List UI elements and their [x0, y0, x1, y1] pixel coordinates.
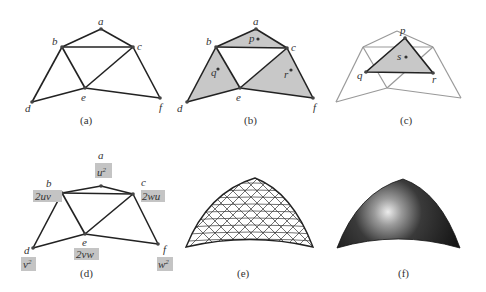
vertex-label-q: q: [357, 69, 363, 81]
weight-boxes: [21, 163, 173, 271]
face-point-s: s: [397, 50, 401, 62]
vertex-label-b: b: [206, 35, 212, 47]
vertex-label-c: c: [141, 176, 146, 188]
panel-b: a b c d e f p q r (b): [177, 15, 318, 127]
face-centroid-dot: [404, 55, 407, 58]
weight-b: 2uv: [35, 190, 51, 202]
panel-e: (e): [140, 170, 374, 280]
panel-c: p q r s (c): [336, 24, 461, 127]
weight-e: 2vw: [76, 248, 94, 260]
vertex-label-e: e: [82, 236, 87, 248]
vertex-label-f: f: [159, 101, 164, 113]
face-point-r: r: [284, 68, 289, 80]
panel-f: (f): [337, 179, 460, 280]
vertex-label-a: a: [253, 15, 259, 27]
vertex-label-a: a: [98, 15, 104, 27]
caption-f: (f): [398, 267, 409, 280]
vertex-label-e: e: [81, 91, 86, 103]
vertex-label-e: e: [236, 91, 241, 103]
vertex-label-b: b: [52, 35, 58, 47]
vertex-label-d: d: [24, 244, 30, 256]
caption-a: (a): [80, 114, 93, 127]
panel-a: a b c d e f (a): [25, 15, 164, 127]
face-point-p: p: [248, 32, 255, 44]
shaded-surface: [337, 179, 460, 248]
face-point-q: q: [211, 66, 217, 78]
surface-outline: [186, 178, 313, 247]
panel-d: a b c d e f u2 2uv 2wu 2vw v2 w2 (d): [21, 149, 173, 280]
vertex-label-c: c: [291, 41, 296, 53]
vertex-label-r: r: [432, 73, 437, 85]
vertex-label-d: d: [177, 102, 183, 114]
caption-b: (b): [244, 114, 257, 127]
vertex-label-b: b: [46, 177, 52, 189]
vertex-label-c: c: [137, 40, 142, 52]
caption-e: (e): [237, 267, 250, 280]
subdivided-mesh: [140, 170, 374, 250]
figure-canvas: a b c d e f (a) a: [0, 0, 486, 292]
caption-c: (c): [400, 114, 413, 127]
vertex-label-a: a: [98, 149, 104, 161]
vertex-label-f: f: [163, 243, 168, 255]
vertex-label-p: p: [399, 24, 406, 36]
caption-d: (d): [80, 267, 93, 280]
vertex-label-f: f: [313, 101, 318, 113]
weight-c: 2wu: [142, 190, 161, 202]
vertex-label-d: d: [25, 102, 31, 114]
